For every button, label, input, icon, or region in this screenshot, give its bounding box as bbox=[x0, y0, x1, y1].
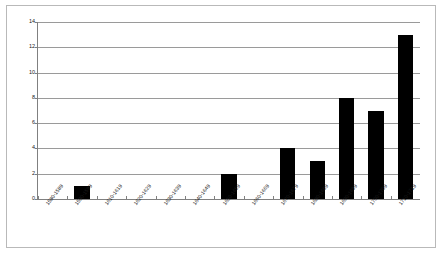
x-label-slot: 1660-1669 bbox=[243, 200, 272, 248]
y-axis-tick-label: 4 bbox=[32, 146, 35, 152]
x-axis-tick-mark bbox=[67, 196, 68, 199]
x-label-slot: 1610-1619 bbox=[96, 200, 125, 248]
plot-area: 02468101214 bbox=[37, 22, 420, 200]
x-axis-tick-mark bbox=[303, 196, 304, 199]
x-label-slot: 1590-1599 bbox=[66, 200, 95, 248]
x-label-slot: 1640-1649 bbox=[184, 200, 213, 248]
x-label-slot: 1700-1709 bbox=[361, 200, 390, 248]
bar bbox=[398, 35, 413, 199]
x-axis-tick-mark bbox=[214, 196, 215, 199]
chart-frame: 02468101214 1580-15891590-15991610-16191… bbox=[6, 5, 436, 248]
bar-slot bbox=[126, 22, 155, 199]
y-axis-tick-label: 2 bbox=[32, 171, 35, 177]
x-label-slot: 1620-1629 bbox=[125, 200, 154, 248]
x-label-slot: 1650-1659 bbox=[214, 200, 243, 248]
bar-slot bbox=[67, 22, 96, 199]
x-label-slot: 1630-1639 bbox=[155, 200, 184, 248]
bar-slot bbox=[214, 22, 243, 199]
x-axis-tick-mark bbox=[97, 196, 98, 199]
x-axis-tick-mark bbox=[391, 196, 392, 199]
bar-series bbox=[38, 22, 420, 199]
x-axis-tick-mark bbox=[185, 196, 186, 199]
bar-slot bbox=[38, 22, 67, 199]
x-label-slot: 1680-1689 bbox=[302, 200, 331, 248]
x-axis-tick-mark bbox=[244, 196, 245, 199]
bar-slot bbox=[391, 22, 420, 199]
x-axis-tick-mark bbox=[273, 196, 274, 199]
bar-slot bbox=[273, 22, 302, 199]
x-axis-tick-mark bbox=[332, 196, 333, 199]
bar-slot bbox=[156, 22, 185, 199]
x-axis-tick-mark bbox=[361, 196, 362, 199]
y-axis-tick-label: 10 bbox=[29, 70, 35, 76]
bar-slot bbox=[332, 22, 361, 199]
bar-slot bbox=[97, 22, 126, 199]
y-axis-tick-label: 8 bbox=[32, 95, 35, 101]
x-axis-tick-mark bbox=[156, 196, 157, 199]
x-label-slot: 1690-1699 bbox=[332, 200, 361, 248]
bar-slot bbox=[303, 22, 332, 199]
bar-slot bbox=[185, 22, 214, 199]
y-axis-tick-label: 6 bbox=[32, 120, 35, 126]
x-axis-labels: 1580-15891590-15991610-16191620-16291630… bbox=[37, 200, 420, 248]
bar-slot bbox=[244, 22, 273, 199]
y-axis-tick-label: 12 bbox=[29, 45, 35, 51]
bar-slot bbox=[361, 22, 390, 199]
x-label-slot: 1670-1679 bbox=[273, 200, 302, 248]
x-axis-tick-mark bbox=[126, 196, 127, 199]
y-axis-tick-label: 0 bbox=[32, 196, 35, 202]
x-label-slot: 1580-1589 bbox=[37, 200, 66, 248]
x-axis-tick-mark bbox=[38, 196, 39, 199]
y-axis-tick-label: 14 bbox=[29, 19, 35, 25]
x-label-slot: 1710-1719 bbox=[391, 200, 420, 248]
